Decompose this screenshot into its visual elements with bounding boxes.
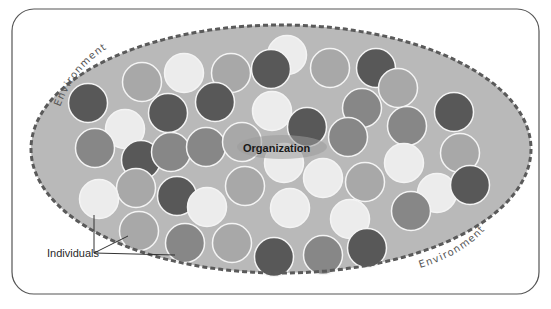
individual-circle	[187, 128, 226, 167]
individual-circle	[69, 84, 108, 123]
individual-circle	[188, 188, 227, 227]
individual-circle	[435, 93, 474, 132]
diagram-canvas: Environment Environment Organization Ind…	[0, 0, 551, 309]
individual-circle	[379, 69, 418, 108]
individuals-label: Individuals	[47, 247, 99, 259]
individual-circle	[76, 129, 115, 168]
individual-circle	[392, 192, 431, 231]
individual-circle	[80, 180, 119, 219]
individual-circle	[271, 189, 310, 228]
organization-environment-diagram: Environment Environment	[0, 0, 551, 309]
individual-circle	[213, 224, 252, 263]
individual-circle	[252, 50, 291, 89]
individual-circle	[311, 49, 350, 88]
individual-circle	[388, 107, 427, 146]
individual-circle	[346, 163, 385, 202]
individual-circle	[304, 159, 343, 198]
individual-circle	[149, 94, 188, 133]
individual-circle	[329, 118, 368, 157]
individual-circle	[123, 63, 162, 102]
individual-circle	[304, 236, 343, 275]
individual-circle	[166, 224, 205, 263]
organization-label: Organization	[243, 142, 310, 154]
individual-circle	[226, 167, 265, 206]
individual-circle	[165, 54, 204, 93]
individual-circle	[152, 133, 191, 172]
individual-circle	[117, 169, 156, 208]
individual-circle	[255, 238, 294, 277]
individual-circle	[120, 212, 159, 251]
individual-circle	[253, 92, 292, 131]
individual-circle	[385, 144, 424, 183]
individual-circle	[196, 83, 235, 122]
individual-circle	[451, 166, 490, 205]
